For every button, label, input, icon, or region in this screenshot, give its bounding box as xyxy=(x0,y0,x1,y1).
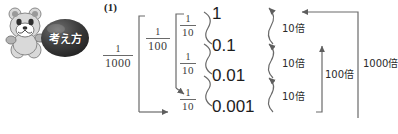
brace-0p1-to-0p01 xyxy=(204,44,212,74)
fraction-denominator: 10 xyxy=(180,63,196,76)
fraction-one-tenth: 1 10 xyxy=(180,52,196,76)
brace-1-to-0p1 xyxy=(204,12,212,44)
kangaekata-badge-label: 考え方 xyxy=(40,18,90,58)
fraction-numerator: 1 xyxy=(114,44,123,55)
fraction-one-tenth: 1 10 xyxy=(180,88,196,112)
fraction-one-thousandth: 1 1000 xyxy=(103,44,133,69)
brace-0p01-to-0p001 xyxy=(204,76,212,106)
multiplier-label-thousand: 1000倍 xyxy=(363,55,398,70)
question-number: (1) xyxy=(104,1,117,13)
bracket-outer xyxy=(139,16,145,112)
fraction-numerator: 1 xyxy=(184,14,193,25)
multiplier-label-hundred: 100倍 xyxy=(325,66,354,81)
arrow-times-ten-1 xyxy=(268,8,273,44)
decimal-value-hundredth: 0.01 xyxy=(212,66,245,86)
bracket-thousand xyxy=(302,12,358,118)
multiplier-label-ten: 10倍 xyxy=(282,88,305,103)
fraction-numerator: 1 xyxy=(153,27,162,38)
kangaekata-badge: 考え方 xyxy=(40,18,90,58)
fraction-denominator: 10 xyxy=(180,99,196,112)
bracket-hundred xyxy=(316,46,322,112)
fraction-one-hundredth: 1 100 xyxy=(146,27,170,52)
decimal-value-thousandth: 0.001 xyxy=(212,97,255,117)
decimal-value-one: 1 xyxy=(212,4,221,24)
decimal-value-tenth: 0.1 xyxy=(212,36,236,56)
fraction-numerator: 1 xyxy=(184,52,193,63)
arrow-times-ten-2 xyxy=(268,44,273,78)
arrow-times-ten-3 xyxy=(268,78,273,112)
fraction-one-tenth: 1 10 xyxy=(180,14,196,38)
fraction-denominator: 10 xyxy=(180,25,196,38)
fraction-denominator: 100 xyxy=(146,38,170,52)
fraction-numerator: 1 xyxy=(184,88,193,99)
multiplier-label-ten: 10倍 xyxy=(282,55,305,70)
multiplier-label-ten: 10倍 xyxy=(282,20,305,35)
fraction-denominator: 1000 xyxy=(103,55,133,69)
